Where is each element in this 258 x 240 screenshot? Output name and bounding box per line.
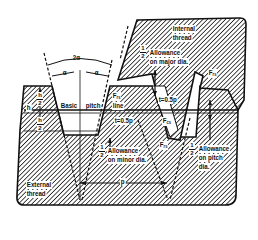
half-h-upper-fraction: h2 — [37, 92, 43, 106]
allowance-minor-label-1: Allowance — [107, 147, 139, 155]
f-rs-line-label: Frs — [112, 92, 121, 101]
allowance-pitch-label-2: on pitch — [198, 154, 224, 162]
allowance-pitch-label-3: dia. — [198, 163, 210, 171]
allowance-minor-label-2: on minor dia. — [107, 156, 147, 164]
line-label: line — [112, 102, 124, 110]
allowance-minor-fraction: 12 — [99, 144, 105, 158]
half-h-lower-fraction: h2 — [37, 117, 43, 131]
allowance-pitch-label-1: Allowance — [198, 145, 230, 153]
allowance-major-label-1: Allowance — [149, 49, 181, 57]
allowance-pitch-fraction: 12 — [189, 142, 195, 156]
external-thread-label-1: External — [26, 181, 52, 189]
basic-label: Basic — [60, 102, 78, 110]
pitch-label: pitch — [85, 102, 101, 110]
external-thread-label-2: thread — [26, 190, 46, 198]
angle-alpha-left-label: α — [62, 69, 67, 77]
internal-thread-label-2: thread — [172, 34, 192, 42]
pitch-p-label: p — [120, 178, 125, 186]
f-rs-lower-label: Frs — [159, 141, 168, 150]
angle-2alpha-label: 2α — [72, 54, 81, 62]
angle-alpha-right-label: α — [94, 69, 99, 77]
allowance-major-label-2: on major dia. — [149, 58, 189, 66]
f-rs-top-right-label: Frs — [208, 69, 217, 78]
allowance-major-fraction: 12 — [140, 45, 146, 59]
f-cs-label: Fcs — [162, 117, 172, 126]
t-upper-label: t=0.5p — [158, 96, 178, 104]
t-lower-label: t=0.5p — [114, 117, 134, 125]
h-label: h — [26, 104, 31, 112]
internal-thread-label-1: Internal — [172, 25, 196, 33]
